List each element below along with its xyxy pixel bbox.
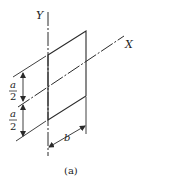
b-label: b	[64, 132, 70, 143]
a-half-lower-denominator: 2	[10, 121, 16, 132]
plate-outline	[48, 31, 86, 120]
y-axis-label: Y	[36, 9, 45, 22]
a-half-upper-denominator: 2	[10, 91, 16, 102]
a-half-upper-numerator: a	[10, 79, 16, 90]
lower-extension-line	[16, 121, 46, 141]
x-axis-label: X	[124, 38, 134, 51]
plate-diagram: Y X a 2 a 2 b (a)	[0, 0, 170, 182]
x-axis	[18, 36, 124, 107]
figure-caption: (a)	[64, 165, 78, 176]
a-half-lower-numerator: a	[10, 108, 16, 119]
upper-extension-line	[13, 56, 46, 77]
